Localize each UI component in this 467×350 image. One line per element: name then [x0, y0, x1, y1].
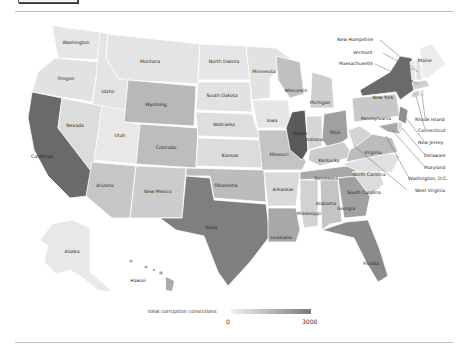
- state-hawaii[interactable]: [129, 259, 174, 291]
- svg-text:Colorado: Colorado: [156, 145, 177, 150]
- svg-text:Kansas: Kansas: [222, 153, 239, 158]
- svg-text:Oregon: Oregon: [58, 76, 75, 81]
- svg-text:Mississippi: Mississippi: [297, 211, 321, 216]
- us-choropleth-map: Washington Oregon California Idaho Nevad…: [0, 0, 467, 350]
- svg-text:Idaho: Idaho: [102, 89, 115, 94]
- svg-text:Delaware: Delaware: [424, 153, 446, 158]
- bottom-divider: [15, 342, 453, 343]
- svg-text:New York: New York: [372, 95, 393, 100]
- svg-text:Louisiana: Louisiana: [270, 235, 292, 240]
- svg-text:Hawaii: Hawaii: [130, 278, 145, 283]
- svg-text:Massachusetts: Massachusetts: [339, 61, 374, 66]
- svg-text:Michigan: Michigan: [310, 100, 331, 105]
- svg-text:Alaska: Alaska: [64, 249, 79, 254]
- svg-text:Wyoming: Wyoming: [145, 102, 167, 107]
- legend-title: total corruption convictions: [148, 308, 217, 314]
- svg-text:Vermont: Vermont: [353, 50, 373, 55]
- svg-text:North Dakota: North Dakota: [209, 59, 240, 64]
- svg-text:Florida: Florida: [363, 261, 379, 266]
- svg-text:Nebraska: Nebraska: [213, 122, 235, 127]
- svg-text:Georgia: Georgia: [337, 206, 355, 211]
- svg-text:Iowa: Iowa: [267, 118, 278, 123]
- svg-text:South Dakota: South Dakota: [206, 93, 237, 98]
- svg-text:Virginia: Virginia: [364, 150, 382, 155]
- svg-text:Rhode Island: Rhode Island: [415, 117, 445, 122]
- svg-text:Illinois: Illinois: [293, 131, 308, 136]
- svg-text:Oklahoma: Oklahoma: [214, 183, 238, 188]
- state-new-jersey[interactable]: [398, 106, 408, 124]
- svg-text:Missouri: Missouri: [270, 152, 289, 157]
- svg-text:Washington, D.C.: Washington, D.C.: [408, 176, 448, 181]
- svg-text:Nevada: Nevada: [66, 123, 84, 128]
- legend-min-value: 0: [226, 318, 230, 325]
- state-alaska[interactable]: [40, 220, 112, 292]
- svg-text:Tennessee: Tennessee: [313, 176, 338, 181]
- legend-color-scale: [231, 309, 311, 314]
- svg-text:Pennsylvania: Pennsylvania: [361, 116, 391, 121]
- svg-text:Alabama: Alabama: [316, 201, 336, 206]
- svg-text:Indiana: Indiana: [305, 137, 322, 142]
- svg-text:Texas: Texas: [204, 225, 218, 230]
- svg-text:Maryland: Maryland: [424, 165, 445, 170]
- svg-text:Arizona: Arizona: [96, 183, 113, 188]
- state-arizona[interactable]: [86, 162, 136, 218]
- svg-text:Ohio: Ohio: [330, 130, 341, 135]
- state-indiana[interactable]: [306, 116, 322, 150]
- svg-text:Washington: Washington: [63, 40, 90, 45]
- svg-text:New Mexico: New Mexico: [144, 189, 172, 194]
- svg-text:Arkansas: Arkansas: [273, 187, 295, 192]
- state-maryland[interactable]: [378, 122, 400, 134]
- svg-text:Utah: Utah: [115, 133, 126, 138]
- state-florida[interactable]: [322, 220, 388, 282]
- svg-text:South Carolina: South Carolina: [347, 190, 381, 195]
- svg-text:Wisconsin: Wisconsin: [285, 88, 308, 93]
- state-massachusetts[interactable]: [412, 80, 430, 90]
- svg-text:New Jersey: New Jersey: [418, 140, 444, 145]
- svg-text:California: California: [31, 154, 53, 159]
- svg-text:Connecticut: Connecticut: [418, 128, 446, 133]
- svg-text:West Virginia: West Virginia: [415, 188, 445, 193]
- state-delaware[interactable]: [398, 122, 402, 132]
- svg-text:North Carolina: North Carolina: [352, 172, 385, 177]
- svg-text:Maine: Maine: [418, 58, 432, 63]
- svg-text:Montana: Montana: [140, 59, 160, 64]
- svg-text:Minnesota: Minnesota: [252, 69, 276, 74]
- svg-text:New Hampshire: New Hampshire: [337, 37, 374, 42]
- legend-max-value: 3000: [302, 318, 317, 325]
- svg-text:Kentucky: Kentucky: [319, 158, 340, 163]
- state-iowa[interactable]: [252, 100, 292, 128]
